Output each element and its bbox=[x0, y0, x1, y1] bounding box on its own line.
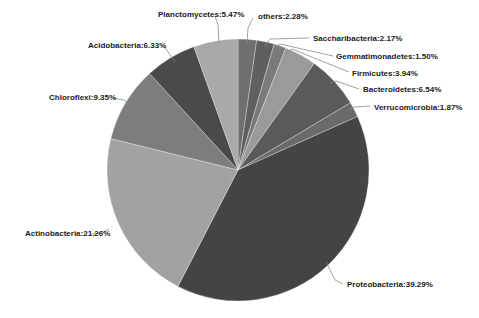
pie-chart: others:2.28% Saccharibacteria:2.17% Gemm… bbox=[0, 0, 479, 318]
leader-line-proteobacteria bbox=[326, 262, 343, 284]
label-saccharibacteria: Saccharibacteria:2.17% bbox=[313, 34, 402, 43]
label-firmicutes: Firmicutes:3.94% bbox=[352, 69, 418, 78]
label-acidobacteria: Acidobacteria:6.33% bbox=[88, 41, 166, 50]
label-planctomycetes: Planctomycetes:5.47% bbox=[158, 10, 244, 19]
label-verrucomicrobia: Verrucomicrobia:1.87% bbox=[374, 103, 462, 112]
label-proteobacteria: Proteobacteria:39.29% bbox=[347, 280, 433, 289]
leader-line-planctomycetes bbox=[215, 16, 219, 43]
label-actinobacteria: Actinobacteria:21.26% bbox=[25, 229, 110, 238]
label-others: others:2.28% bbox=[258, 12, 308, 21]
pie-slices bbox=[107, 39, 369, 301]
label-bacteroidetes: Bacteroidetes:6.54% bbox=[363, 85, 441, 94]
label-chloroflexi: Chloroflexi:9.35% bbox=[49, 93, 116, 102]
label-gemmatimonadetes: Gemmatimonadetes:1.50% bbox=[336, 52, 438, 61]
